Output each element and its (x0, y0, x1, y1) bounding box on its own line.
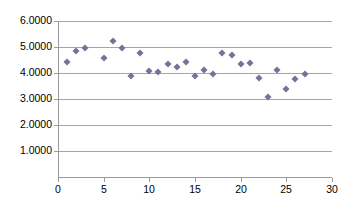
data-point-marker (191, 73, 198, 80)
data-point-marker (73, 48, 80, 55)
y-axis-tick-label: 4.0000 (0, 67, 52, 78)
data-point-marker (155, 68, 162, 75)
y-axis-tick-label: 2.0000 (0, 119, 52, 130)
data-point-marker (274, 67, 281, 74)
x-axis-tick-label: 20 (226, 184, 256, 195)
y-axis-tick-label: 1.0000 (0, 145, 52, 156)
x-axis-tick-mark (58, 178, 59, 182)
scatter-chart: 6.00005.00004.00003.00002.00001.0000 051… (0, 0, 339, 206)
x-axis-tick-mark (149, 178, 150, 182)
data-point-marker (109, 37, 116, 44)
data-point-marker (164, 61, 171, 68)
y-axis-tick-label: 6.0000 (0, 15, 52, 26)
data-point-marker (219, 49, 226, 56)
data-point-marker (64, 59, 71, 66)
data-point-marker (237, 61, 244, 68)
x-axis-tick-mark (286, 178, 287, 182)
x-axis-tick-label: 30 (317, 184, 339, 195)
data-point-marker (283, 86, 290, 93)
data-point-marker (146, 67, 153, 74)
x-axis-tick-label: 25 (271, 184, 301, 195)
data-point-marker (228, 52, 235, 59)
data-point-marker (100, 55, 107, 62)
x-axis-tick-mark (104, 178, 105, 182)
plot-area (58, 21, 332, 177)
data-point-marker (173, 63, 180, 70)
data-point-marker (118, 44, 125, 51)
y-axis-tick-label: 3.0000 (0, 93, 52, 104)
x-axis-tick-mark (195, 178, 196, 182)
x-axis-tick-label: 5 (89, 184, 119, 195)
data-point-marker (182, 58, 189, 65)
data-point-marker (255, 74, 262, 81)
data-point-marker (82, 45, 89, 52)
data-point-marker (128, 73, 135, 80)
x-axis-tick-mark (332, 178, 333, 182)
y-axis-tick-label: 5.0000 (0, 41, 52, 52)
data-point-marker (201, 67, 208, 74)
x-axis-tick-label: 15 (180, 184, 210, 195)
x-axis-tick-mark (241, 178, 242, 182)
x-axis-tick-label: 10 (134, 184, 164, 195)
data-point-marker (265, 94, 272, 101)
data-point-marker (292, 75, 299, 82)
x-axis-tick-label: 0 (43, 184, 73, 195)
data-point-marker (210, 70, 217, 77)
data-point-marker (137, 50, 144, 57)
data-point-marker (246, 60, 253, 67)
data-point-marker (301, 70, 308, 77)
